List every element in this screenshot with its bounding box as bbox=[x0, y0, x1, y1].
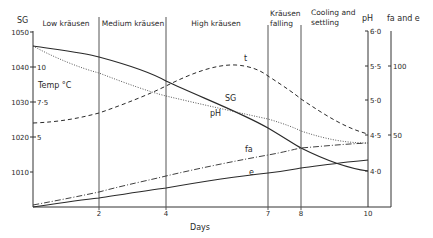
svg-text:1020: 1020 bbox=[11, 134, 29, 142]
ph-curve-label: pH bbox=[210, 109, 221, 118]
ph-curve bbox=[33, 46, 368, 143]
fa-curve-label: fa bbox=[245, 145, 253, 154]
sg-ticks: 1050 1040 1030 1020 1010 bbox=[11, 29, 36, 177]
e-curve bbox=[33, 160, 368, 207]
svg-text:8: 8 bbox=[299, 210, 303, 218]
temp-ticks: 10 7·5 5 bbox=[37, 64, 48, 142]
svg-text:4: 4 bbox=[164, 210, 169, 218]
temp-curve-label: t bbox=[244, 54, 247, 63]
phase-low-label: Low kräusen bbox=[42, 19, 89, 28]
svg-text:6·0: 6·0 bbox=[370, 28, 381, 36]
phase-cooling-label-1: Cooling and bbox=[311, 8, 356, 17]
sg-axis-label: SG bbox=[17, 16, 28, 25]
svg-text:50: 50 bbox=[393, 132, 402, 140]
svg-text:100: 100 bbox=[393, 63, 406, 71]
sg-curve-label: SG bbox=[225, 94, 236, 103]
fa-curve bbox=[33, 143, 368, 205]
svg-text:7: 7 bbox=[266, 210, 270, 218]
svg-text:2: 2 bbox=[97, 210, 101, 218]
sg-curve bbox=[33, 46, 368, 171]
fermentation-chart: 1050 1040 1030 1020 1010 SG 10 7·5 5 Tem… bbox=[0, 0, 433, 238]
ph-ticks: 6·0 5·5 5·0 4·5 4·0 bbox=[365, 28, 381, 176]
fa-e-axis-label: fa and e bbox=[387, 14, 420, 23]
svg-text:10: 10 bbox=[364, 210, 373, 218]
svg-text:1040: 1040 bbox=[11, 64, 29, 72]
svg-text:1030: 1030 bbox=[11, 99, 29, 107]
phase-medium-label: Medium kräusen bbox=[102, 19, 165, 28]
svg-text:7·5: 7·5 bbox=[37, 99, 48, 107]
svg-text:4·5: 4·5 bbox=[370, 132, 381, 140]
phase-falling-label-2: falling bbox=[270, 19, 293, 28]
temp-axis-label: Temp °C bbox=[37, 81, 72, 90]
svg-text:1050: 1050 bbox=[11, 29, 29, 37]
svg-text:5·0: 5·0 bbox=[370, 97, 381, 105]
phase-falling-label-1: Kräusen bbox=[270, 9, 301, 18]
x-ticks: 2 4 7 8 10 bbox=[97, 210, 373, 218]
svg-text:10: 10 bbox=[37, 64, 46, 72]
ph-axis-label: pH bbox=[362, 14, 373, 23]
svg-text:1010: 1010 bbox=[11, 169, 29, 177]
x-axis-label: Days bbox=[190, 223, 210, 232]
temp-curve bbox=[33, 65, 368, 134]
svg-text:5: 5 bbox=[37, 134, 41, 142]
phase-high-label: High kräusen bbox=[191, 19, 241, 28]
svg-text:5·5: 5·5 bbox=[370, 63, 381, 71]
e-curve-label: e bbox=[249, 168, 254, 177]
phase-cooling-label-2: settling bbox=[311, 18, 339, 27]
svg-text:4·0: 4·0 bbox=[370, 168, 381, 176]
